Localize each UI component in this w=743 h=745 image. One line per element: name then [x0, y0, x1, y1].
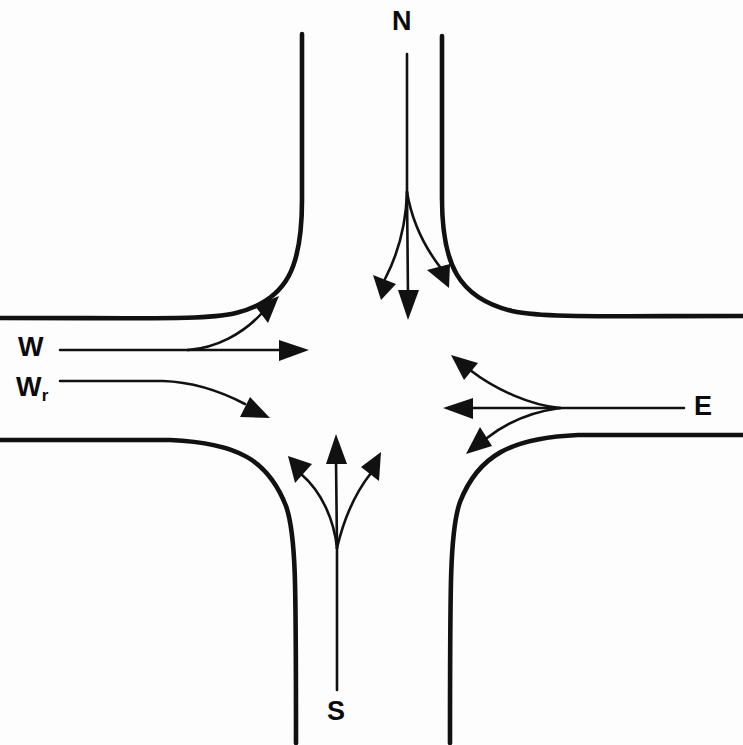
- arrowhead-east-to-south: [466, 427, 492, 454]
- label-south: S: [327, 698, 345, 725]
- label-west-right-base: W: [16, 372, 42, 402]
- arrowhead-west-through: [279, 340, 309, 361]
- arrowhead-north-through: [398, 290, 419, 320]
- flow-south-through: [336, 460, 337, 548]
- arrowhead-south-to-east: [361, 452, 381, 481]
- label-west: W: [18, 334, 44, 361]
- arrowhead-east-through: [443, 398, 473, 419]
- curb-edge-southwest: [0, 440, 296, 743]
- flow-north-to-east: [407, 192, 440, 267]
- diagram-canvas: N S E W Wr: [0, 0, 743, 745]
- curb-edge-southeast: [450, 435, 743, 743]
- label-east: E: [694, 393, 712, 420]
- flow-west-right-to-south: [60, 381, 245, 404]
- intersection-diagram: [0, 0, 743, 745]
- label-west-right-subscript: r: [42, 386, 49, 405]
- arrowhead-south-through: [326, 434, 347, 464]
- flow-south-to-east: [337, 473, 371, 548]
- flow-north-through: [407, 192, 408, 296]
- label-north: N: [392, 8, 412, 35]
- arrowhead-north-to-east: [427, 264, 450, 288]
- label-west-right: Wr: [16, 374, 49, 401]
- flow-north-to-west: [385, 192, 407, 279]
- flow-south-to-west: [301, 474, 337, 548]
- arrowhead-south-to-west: [288, 456, 312, 483]
- arrowhead-east-to-north: [451, 355, 478, 380]
- flow-east-to-north: [470, 370, 560, 408]
- arrowhead-west-right-to-south: [240, 397, 270, 418]
- curb-edge-northwest: [0, 34, 302, 318]
- flow-east-to-south: [487, 408, 560, 438]
- curb-edge-northeast: [442, 36, 743, 316]
